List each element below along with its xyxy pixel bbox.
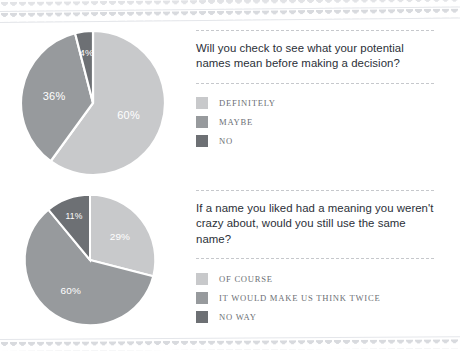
pie-slice-label: 36% [43, 90, 66, 102]
divider-bottom-1 [196, 83, 434, 84]
legend-1: DEFINITELY MAYBE NO [196, 94, 438, 151]
legend-item: NO WAY [196, 307, 438, 326]
question-text-1: Will you check to see what your potentia… [196, 41, 438, 72]
legend-label: NO WAY [219, 312, 257, 322]
legend-item: IT WOULD MAKE US THINK TWICE [196, 288, 438, 307]
survey-section-2: 29%60%11% If a name you liked had a mean… [0, 186, 444, 336]
pie-slice-label: 4% [79, 47, 93, 58]
legend-label: NO [219, 136, 233, 146]
legend-label: OF COURSE [219, 274, 273, 284]
pie-slice-label: 11% [66, 211, 83, 221]
legend-label: MAYBE [219, 117, 253, 127]
legend-item: DEFINITELY [196, 94, 438, 113]
legend-swatch-maybe [196, 116, 208, 128]
divider-top-2 [196, 190, 434, 191]
pie-slice-label: 60% [117, 109, 140, 121]
legend-2: OF COURSE IT WOULD MAKE US THINK TWICE N… [196, 269, 438, 326]
legend-item: OF COURSE [196, 269, 438, 288]
legend-item: NO [196, 132, 438, 151]
text-column-1: Will you check to see what your potentia… [196, 24, 438, 180]
legend-swatch-of-course [196, 273, 208, 285]
question-text-2: If a name you liked had a meaning you we… [196, 201, 438, 247]
pie-slice-label: 29% [110, 231, 130, 242]
chart-column-1: 60%36%4% [0, 24, 190, 180]
pie-chart-2: 29%60%11% [22, 192, 158, 328]
pie-slice-label: 60% [61, 285, 82, 296]
legend-swatch-no [196, 135, 208, 147]
legend-item: MAYBE [196, 113, 438, 132]
legend-swatch-no-way [196, 311, 208, 323]
legend-label: DEFINITELY [219, 98, 276, 108]
legend-swatch-think-twice [196, 292, 208, 304]
chart-column-2: 29%60%11% [0, 186, 190, 336]
pie-chart-1: 60%36%4% [18, 28, 168, 178]
legend-label: IT WOULD MAKE US THINK TWICE [219, 293, 380, 303]
divider-bottom-2 [196, 258, 434, 259]
scalloped-border-bottom [0, 339, 460, 351]
divider-top-1 [196, 30, 434, 31]
text-column-2: If a name you liked had a meaning you we… [196, 186, 438, 336]
survey-section-1: 60%36%4% Will you check to see what your… [0, 24, 444, 180]
legend-swatch-definitely [196, 97, 208, 109]
